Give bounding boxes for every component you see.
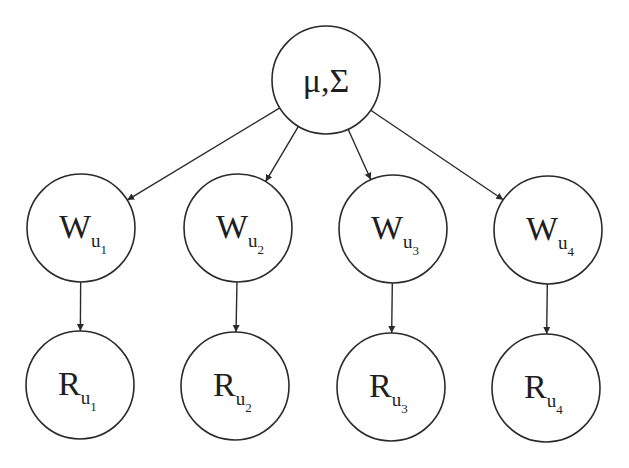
node-R_u2: Ru2 [181,332,289,440]
node-label-subscript: u [558,232,568,253]
node-label-base: W [59,208,92,245]
node-label-subscript: u [236,388,246,409]
node-R_u1: Ru1 [26,331,134,439]
edge-mu-sigma-to-W_u2 [266,126,299,181]
node-label-subscript: u [392,389,402,410]
node-label-index: 2 [245,400,252,415]
node-mu-sigma: μ,Σ [272,26,380,134]
edge-W_u3-to-R_u3 [392,283,393,333]
node-label-index: 2 [258,242,265,257]
node-label-subscript: u [248,230,258,251]
node-label: μ,Σ [303,62,350,99]
nodes: μ,ΣWu1Wu2Wu3Wu4Ru1Ru2Ru3Ru4 [26,26,602,442]
node-label-index: 1 [101,242,108,257]
node-label-subscript: u [81,387,91,408]
node-W_u1: Wu1 [27,174,135,282]
node-label-index: 4 [568,244,575,259]
node-label-base: R [213,366,236,403]
node-W_u3: Wu3 [339,175,447,283]
node-label-index: 3 [413,243,420,258]
node-label-index: 4 [556,402,563,417]
node-W_u2: Wu2 [184,174,292,282]
edge-W_u4-to-R_u4 [547,284,548,334]
node-label-index: 1 [90,399,97,414]
edges [80,108,547,334]
node-label-subscript: u [91,230,101,251]
node-label-subscript: u [547,390,557,411]
node-label-base: R [369,367,392,404]
node-R_u3: Ru3 [337,333,445,441]
graphical-model-diagram: μ,ΣWu1Wu2Wu3Wu4Ru1Ru2Ru3Ru4 [0,0,629,468]
edge-W_u2-to-R_u2 [236,282,237,332]
node-R_u4: Ru4 [492,334,600,442]
node-label-base: W [216,208,249,245]
node-label-base: W [526,210,559,247]
node-label-subscript: u [403,231,413,252]
node-label-index: 3 [401,401,408,416]
node-label-base: W [371,209,404,246]
edge-mu-sigma-to-W_u3 [348,129,371,180]
node-label-base: R [524,368,547,405]
node-label-base: R [58,365,81,402]
node-W_u4: Wu4 [494,176,602,284]
